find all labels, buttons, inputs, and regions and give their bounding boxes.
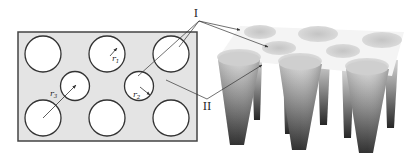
hole-large [153,100,189,136]
hole-large [89,100,125,136]
cone-array-panel [217,25,404,153]
hole-large [89,36,125,72]
top-view-panel: r1 r2 r3 [18,32,197,141]
cones-front [218,52,389,153]
diagram-canvas: r1 r2 r3 [0,0,419,165]
label-II: II [203,100,212,113]
hole-large [25,36,61,72]
label-I: I [194,7,198,20]
